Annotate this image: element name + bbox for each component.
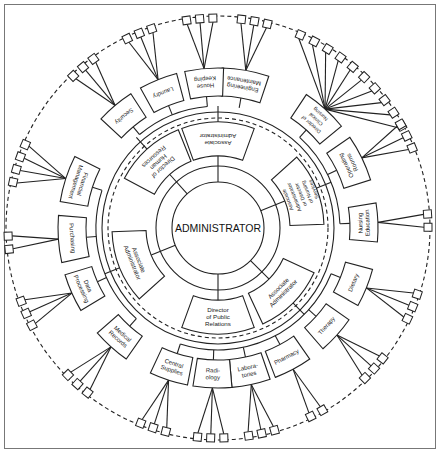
leaf-connector xyxy=(248,385,251,432)
associate-label: AssociateAdministrator xyxy=(200,133,236,147)
leaf-connector xyxy=(187,24,204,68)
leaf-unit-box xyxy=(16,296,26,306)
leaf-unit-box xyxy=(148,423,158,433)
leaf-unit-box xyxy=(193,433,202,442)
leaf-unit-box xyxy=(207,434,215,442)
leaf-connector xyxy=(212,388,223,434)
leaf-connector xyxy=(325,61,338,109)
connector-line xyxy=(170,174,187,193)
leaf-unit-box xyxy=(423,210,432,219)
leaf-connector xyxy=(325,70,350,109)
connector-line xyxy=(206,97,207,107)
leaf-unit-box xyxy=(88,53,99,64)
connector-line xyxy=(275,336,280,345)
administrator-label: ADMINISTRATOR xyxy=(175,222,261,234)
leaf-connector xyxy=(251,385,261,430)
leaf-unit-box xyxy=(134,28,144,38)
leaf-unit-box xyxy=(244,431,253,440)
associate-label: Directorof PublicRelations xyxy=(205,306,231,327)
leaf-unit-box xyxy=(182,16,191,25)
leaf-unit-box xyxy=(122,33,133,44)
org-chart-wheel: EngineeringMaintenanceDirector ofClinica… xyxy=(0,0,442,456)
connector-line xyxy=(140,142,147,149)
connector-line xyxy=(326,182,332,184)
leaf-unit-box xyxy=(209,14,217,22)
leaf-connector xyxy=(241,23,246,70)
leaf-connector xyxy=(200,23,204,69)
leaf-unit-box xyxy=(20,139,31,150)
connector-line xyxy=(130,319,137,326)
leaf-connector xyxy=(378,214,424,222)
leaf-connector xyxy=(293,369,320,406)
leaf-connector xyxy=(366,288,403,317)
leaf-unit-box xyxy=(424,223,432,231)
leaf-connector xyxy=(293,369,309,413)
leaf-connector xyxy=(13,239,58,249)
leaf-unit-box xyxy=(335,52,346,63)
leaf-unit-box xyxy=(4,232,12,240)
leaf-connector xyxy=(142,380,168,419)
leaf-connector xyxy=(325,52,326,109)
leaf-connector xyxy=(20,171,66,179)
leaf-unit-box xyxy=(161,427,171,437)
leaf-unit-box xyxy=(257,429,266,438)
connector-line xyxy=(92,187,102,190)
leaf-connector xyxy=(12,236,58,239)
connector-line xyxy=(97,278,106,282)
connector-line xyxy=(151,245,175,255)
leaf-connector xyxy=(325,80,361,109)
leaf-connector xyxy=(211,388,213,434)
leaf-unit-box xyxy=(5,245,14,254)
administrator-node: ADMINISTRATOR xyxy=(172,182,264,274)
leaf-connector xyxy=(17,179,66,184)
leaf-connector xyxy=(24,158,66,178)
leaf-unit-box xyxy=(322,43,333,54)
connector-line xyxy=(300,310,304,314)
leaf-unit-box xyxy=(379,95,390,106)
leaf-connector xyxy=(154,380,168,424)
connector-line xyxy=(316,185,325,189)
leaf-unit-box xyxy=(402,313,413,324)
leaf-connector xyxy=(362,126,397,158)
leaf-connector xyxy=(362,138,403,158)
leaf-connector xyxy=(29,146,66,178)
connector-line xyxy=(331,274,340,278)
department-label: Radi-ology xyxy=(206,367,221,380)
leaf-connector xyxy=(129,42,158,79)
leaf-unit-box xyxy=(388,107,399,118)
connector-line xyxy=(133,127,139,135)
leaf-unit-box xyxy=(220,434,228,442)
leaf-connector xyxy=(204,22,213,69)
connector-line xyxy=(243,347,245,357)
leaf-unit-box xyxy=(15,152,25,162)
leaf-unit-box xyxy=(412,289,422,299)
connector-line xyxy=(177,344,180,354)
leaf-unit-box xyxy=(408,301,418,311)
leaf-unit-box xyxy=(195,14,204,23)
leaf-unit-box xyxy=(8,177,18,187)
department-label: NursingEducation xyxy=(357,209,371,236)
leaf-connector xyxy=(167,380,169,427)
leaf-unit-box xyxy=(347,61,358,72)
connector-line xyxy=(169,106,173,115)
connector-line xyxy=(293,303,300,310)
leaf-connector xyxy=(312,45,325,109)
leaf-unit-box xyxy=(82,387,93,398)
leaf-connector xyxy=(362,149,409,157)
connector-line xyxy=(328,170,337,174)
leaf-connector xyxy=(251,385,273,427)
leaf-connector xyxy=(246,25,254,70)
connector-line xyxy=(261,201,285,211)
leaf-unit-box xyxy=(237,15,246,24)
connector-line xyxy=(86,237,96,238)
leaf-unit-box xyxy=(147,24,157,34)
connector-line xyxy=(136,137,140,141)
leaf-unit-box xyxy=(11,164,21,174)
leaf-unit-box xyxy=(270,425,280,435)
leaf-unit-box xyxy=(377,353,388,364)
connector-line xyxy=(300,130,307,137)
leaf-unit-box xyxy=(250,17,259,26)
leaf-connector xyxy=(198,388,213,433)
leaf-unit-box xyxy=(263,19,273,29)
leaf-connector xyxy=(378,222,424,227)
